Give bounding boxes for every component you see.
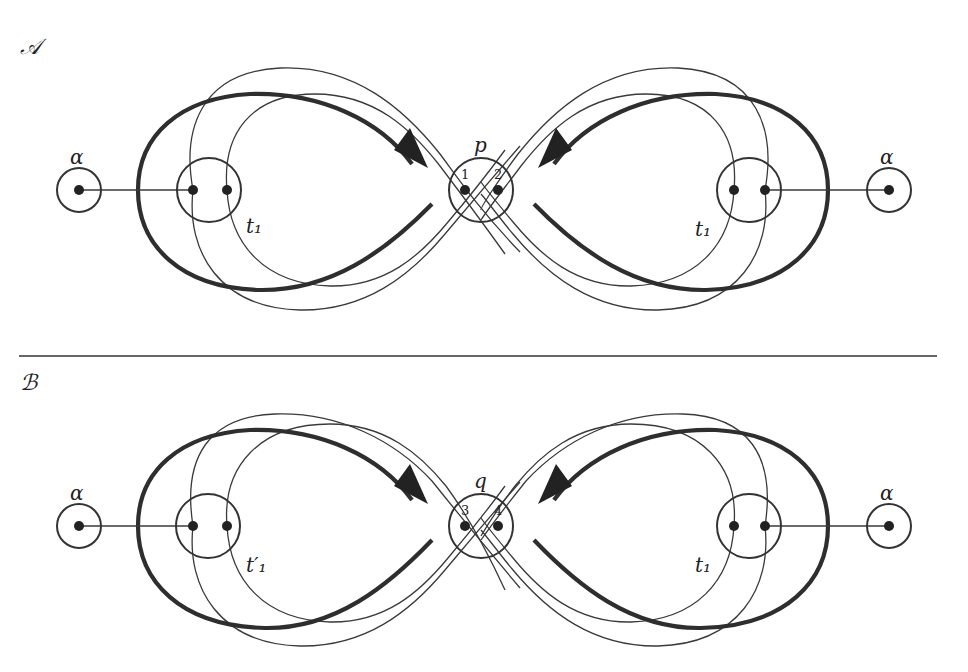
thin-curve: [191, 414, 520, 588]
t-label-right: t₁: [695, 217, 711, 241]
center-number: 1: [461, 167, 469, 182]
thin-curve: [481, 414, 767, 540]
t-label-left: t₁: [246, 214, 262, 238]
panel-b-left-lobe: [57, 414, 520, 646]
t-dot: [188, 521, 198, 531]
thin-curve: [192, 146, 520, 310]
t-label-right: t₁: [695, 553, 711, 577]
panel-a-left-lobe: [57, 68, 520, 310]
thin-curve: [192, 482, 520, 646]
t-dot: [222, 185, 232, 195]
center-dot: [493, 185, 503, 195]
thick-loop: [138, 430, 432, 628]
center-number: 3: [461, 503, 469, 518]
thin-curve: [481, 94, 735, 220]
alpha-label-left: α: [70, 481, 84, 505]
t-dot: [222, 521, 232, 531]
thick-loop: [534, 94, 828, 290]
center-number: 4: [494, 503, 502, 518]
alpha-label-right: α: [880, 145, 894, 169]
center-number: 2: [494, 167, 502, 182]
thick-loop: [138, 94, 432, 290]
alpha-dot: [74, 185, 84, 195]
panel-b-title: ℬ: [20, 370, 39, 395]
t-dot: [188, 185, 198, 195]
panel-a: 𝒜 α t₁: [20, 34, 911, 310]
t-prime-label-left: t′₁: [246, 553, 267, 577]
t-dot: [760, 185, 770, 195]
center-node-q: [449, 494, 513, 558]
center-dot: [460, 521, 470, 531]
thin-curve: [481, 68, 768, 210]
center-dot: [493, 521, 503, 531]
alpha-label-left: α: [70, 145, 84, 169]
t-dot: [760, 521, 770, 531]
t-dot: [729, 185, 739, 195]
alpha-label-right: α: [880, 481, 894, 505]
alpha-dot: [884, 521, 894, 531]
t-dot: [729, 521, 739, 531]
figure: 𝒜 α t₁: [0, 0, 968, 672]
panel-b-right-lobe: [481, 414, 911, 646]
panel-a-right-lobe: [481, 68, 911, 310]
thick-loop: [534, 430, 828, 628]
center-dot: [460, 185, 470, 195]
thin-curve: [481, 424, 734, 536]
center-label-p: p: [474, 133, 487, 157]
alpha-dot: [884, 185, 894, 195]
panel-a-title: 𝒜: [20, 34, 47, 59]
panel-b: ℬ α t′₁: [20, 370, 911, 646]
center-label-q: q: [474, 469, 487, 493]
alpha-dot: [74, 521, 84, 531]
